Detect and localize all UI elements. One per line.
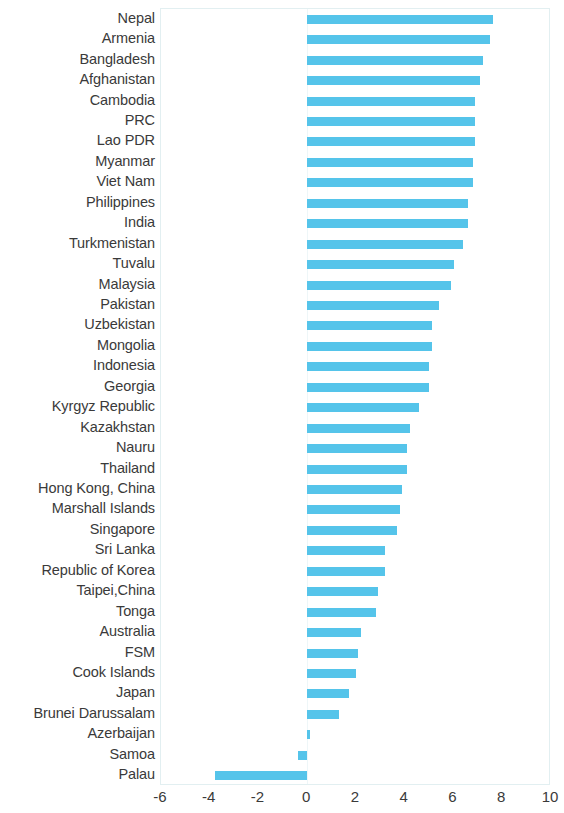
category-label: Uzbekistan — [0, 317, 155, 332]
category-axis: NepalArmeniaBangladeshAfghanistanCambodi… — [0, 8, 155, 785]
category-label: Armenia — [0, 31, 155, 46]
bar — [307, 689, 348, 698]
category-label: Thailand — [0, 461, 155, 476]
value-axis-tick-label: 8 — [497, 788, 505, 805]
bar — [307, 240, 463, 249]
category-label: Afghanistan — [0, 72, 155, 87]
bar — [307, 76, 480, 85]
bar — [307, 424, 409, 433]
bar — [307, 260, 453, 269]
category-label: Georgia — [0, 379, 155, 394]
category-label: Bangladesh — [0, 52, 155, 67]
category-label: Kazakhstan — [0, 420, 155, 435]
bar — [307, 56, 483, 65]
value-axis-tick-label: 6 — [448, 788, 456, 805]
bar — [307, 15, 492, 24]
bar — [307, 321, 431, 330]
plot-area — [160, 8, 550, 785]
category-label: Sri Lanka — [0, 542, 155, 557]
category-label: Cook Islands — [0, 665, 155, 680]
value-axis-tick-label: -6 — [153, 788, 166, 805]
bar — [298, 751, 308, 760]
bar — [307, 158, 473, 167]
bar — [307, 281, 451, 290]
value-axis-tick-label: 4 — [400, 788, 408, 805]
value-axis-tick-label: 0 — [302, 788, 310, 805]
category-label: Tonga — [0, 604, 155, 619]
category-label: PRC — [0, 113, 155, 128]
bar — [307, 567, 385, 576]
category-label: Samoa — [0, 747, 155, 762]
bar — [307, 362, 429, 371]
bar — [307, 403, 419, 412]
category-label: Singapore — [0, 522, 155, 537]
bar — [307, 587, 378, 596]
category-label: Hong Kong, China — [0, 481, 155, 496]
category-label: India — [0, 215, 155, 230]
category-label: Australia — [0, 624, 155, 639]
bar — [307, 35, 490, 44]
bar — [307, 465, 407, 474]
category-label: Japan — [0, 685, 155, 700]
category-label: Kyrgyz Republic — [0, 399, 155, 414]
category-label: Palau — [0, 767, 155, 782]
category-label: Cambodia — [0, 93, 155, 108]
category-label: Pakistan — [0, 297, 155, 312]
value-axis-tick-label: 10 — [542, 788, 559, 805]
category-label: Mongolia — [0, 338, 155, 353]
bar — [307, 710, 339, 719]
bar — [307, 444, 407, 453]
bar — [307, 342, 431, 351]
category-label: Tuvalu — [0, 256, 155, 271]
category-label: Lao PDR — [0, 133, 155, 148]
bar — [307, 199, 468, 208]
category-label: Nauru — [0, 440, 155, 455]
bar — [307, 505, 400, 514]
value-axis-tick-label: -4 — [202, 788, 215, 805]
category-label: Indonesia — [0, 358, 155, 373]
category-label: Philippines — [0, 195, 155, 210]
category-label: Myanmar — [0, 154, 155, 169]
bar — [307, 608, 375, 617]
bar — [307, 485, 402, 494]
bar — [307, 178, 473, 187]
value-axis-tick-label: 2 — [351, 788, 359, 805]
bar — [307, 301, 439, 310]
bar — [307, 97, 475, 106]
bar — [307, 649, 358, 658]
bar — [307, 137, 475, 146]
category-label: Brunei Darussalam — [0, 706, 155, 721]
value-axis: -6-4-20246810 — [160, 788, 550, 813]
category-label: Turkmenistan — [0, 236, 155, 251]
category-label: Taipei,China — [0, 583, 155, 598]
category-label: Azerbaijan — [0, 726, 155, 741]
bar — [307, 219, 468, 228]
bar — [307, 730, 309, 739]
value-axis-tick-label: -2 — [251, 788, 264, 805]
bar — [215, 771, 308, 780]
bar — [307, 669, 356, 678]
bar — [307, 526, 397, 535]
category-label: Malaysia — [0, 277, 155, 292]
bar-chart: NepalArmeniaBangladeshAfghanistanCambodi… — [0, 0, 564, 813]
category-label: FSM — [0, 645, 155, 660]
category-label: Viet Nam — [0, 174, 155, 189]
category-label: Nepal — [0, 11, 155, 26]
category-label: Marshall Islands — [0, 501, 155, 516]
bar — [307, 546, 385, 555]
bar — [307, 628, 361, 637]
bar — [307, 383, 429, 392]
category-label: Republic of Korea — [0, 563, 155, 578]
bar — [307, 117, 475, 126]
